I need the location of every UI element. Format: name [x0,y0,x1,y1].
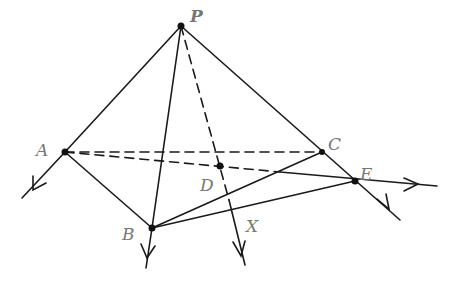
point-A [62,149,69,156]
point-P [178,23,185,30]
label-B: B [121,224,135,244]
ray-B [146,228,152,268]
edge-AD-dashed [65,152,280,172]
point-E [352,178,359,185]
arrow-E-down-icon [377,194,389,209]
label-A: A [34,140,48,160]
point-D [217,163,224,170]
edge-PA [65,26,181,152]
pyramid-diagram: P A B C D E X [0,0,450,287]
edge-AB [65,152,152,228]
edge-BC [152,152,322,228]
label-C: C [328,134,341,154]
edge-PB [152,26,181,228]
ray-DX-solid [229,200,245,265]
label-E: E [359,164,373,184]
diagram-svg: P A B C D E X [0,0,450,287]
arrow-E-right-icon [404,178,418,191]
point-B [149,225,156,232]
edge-PD-dashed [181,26,229,200]
label-P: P [189,6,204,26]
point-C [319,149,325,155]
label-X: X [244,216,259,236]
edge-PC-E [181,26,400,220]
label-D: D [199,175,214,195]
